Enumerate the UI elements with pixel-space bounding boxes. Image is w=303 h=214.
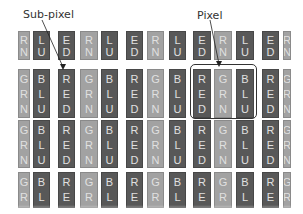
pixel-arrow-icon [210,20,222,67]
subpixel-arrow-icon [42,20,66,70]
bottom-fade [0,205,303,214]
callout-arrows [0,0,303,214]
